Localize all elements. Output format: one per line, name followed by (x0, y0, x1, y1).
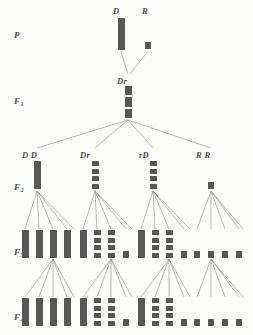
generation-label-f2: F2 (14, 182, 24, 192)
f3-group3-bar2-segment (152, 230, 159, 235)
f3-group4-bar3 (222, 251, 228, 258)
f4-group2-bar4 (123, 319, 129, 326)
f4-group2-bar3-segment (108, 298, 115, 303)
f4-group2-bar2-segment (94, 313, 101, 318)
f3-group3-bar2-segment (152, 238, 159, 243)
f4-group3-bar4 (181, 319, 187, 326)
f4-group3-bar1 (138, 298, 145, 326)
generation-label-p: P (14, 30, 20, 40)
connector-f2-to-f3-g2-5 (95, 191, 132, 229)
f3-group2-bar2-segment (94, 230, 101, 235)
connector-f1-to-f2-1 (37, 120, 128, 148)
connector-f3-to-f4-g2-5 (111, 259, 132, 297)
inheritance-diagram: PF1F2F3F4 DRDrD DDrrDR R (0, 0, 253, 335)
f2-node-dr-segment (92, 176, 99, 181)
connector-f3-to-f4-g1-4 (53, 259, 67, 297)
connector-f3-to-f4-g2-2 (97, 259, 111, 297)
f4-group1-bar3 (50, 298, 57, 326)
connector-f1-to-f2-3 (128, 120, 153, 148)
connector-f2-to-f3-g1-5 (37, 191, 74, 229)
f2-node-rr (208, 182, 214, 189)
f3-group3-bar3-segment (166, 230, 173, 235)
f2-node-rd-segment (150, 176, 157, 181)
connector-f2-to-f3-g3-2 (153, 191, 155, 229)
f4-group3-bar3-segment (166, 313, 173, 318)
connector-f2-to-f3-g3-1 (141, 191, 153, 229)
f1-node-dr-segment (125, 109, 132, 118)
genotype-label-dr: Dr (117, 76, 127, 86)
f1-node-dr-segment (125, 86, 132, 95)
connector-f3-to-f4-g4-3 (211, 259, 225, 297)
connector-f2-to-f3-g2-2 (95, 191, 97, 229)
f2-node-dd (34, 161, 41, 189)
connector-f3-to-f4-g3-5 (169, 259, 190, 297)
f2-node-rd-segment (150, 161, 157, 166)
f2-node-dr-segment (92, 184, 99, 189)
f4-group4-bar2 (208, 319, 214, 326)
f4-group1-bar1 (22, 298, 29, 326)
f3-group2-bar3-segment (108, 230, 115, 235)
f4-group4-bar1 (194, 319, 200, 326)
connector-f3-to-f4-g1-2 (39, 259, 53, 297)
generation-label-subscript: 1 (20, 101, 23, 107)
f1-node-dr-segment (125, 97, 132, 106)
f3-group1-bar1 (22, 230, 29, 258)
p-node-r (145, 42, 151, 49)
f3-group1-bar3 (50, 230, 57, 258)
f2-node-rd-segment (150, 184, 157, 189)
connector-f3-to-f4-g1-5 (53, 259, 74, 297)
connector-f2-to-f3-g4-5 (211, 191, 243, 229)
connector-f2-to-f3-g3-4 (153, 191, 184, 229)
connector-f3-to-f4-g2-4 (111, 259, 126, 297)
connector-f2-to-f3-g4-3 (211, 191, 225, 229)
f2-node-dr-segment (92, 169, 99, 174)
connector-f2-to-f3-g4-1 (197, 191, 211, 229)
f3-group4-bar4 (236, 251, 242, 258)
connector-f2-to-f3-g2-1 (83, 191, 95, 229)
f3-group3-bar3-segment (166, 238, 173, 243)
connector-f2-to-f3-g4-4 (211, 191, 239, 229)
f4-group3-bar3-segment (166, 321, 173, 326)
connector-f3-to-f4-g2-1 (83, 259, 111, 297)
connector-f2-to-f3-g3-5 (153, 191, 190, 229)
f4-group2-bar3-segment (108, 313, 115, 318)
connector-f1-to-f2-2 (95, 120, 128, 148)
f2-node-rd-segment (150, 169, 157, 174)
f4-group2-bar2-segment (94, 306, 101, 311)
f3-group3-bar4 (181, 251, 187, 258)
f4-group2-bar2-segment (94, 321, 101, 326)
f4-group2-bar3-segment (108, 306, 115, 311)
f4-group3-bar2-segment (152, 306, 159, 311)
connector-f2-to-f3-g1-4 (37, 191, 67, 229)
f3-group3-bar2-segment (152, 245, 159, 250)
f4-group1-bar4 (64, 298, 71, 326)
connector-f2-to-f3-g3-3 (153, 191, 169, 229)
f3-group3-bar3-segment (166, 253, 173, 258)
f2-node-dr-segment (92, 161, 99, 166)
connector-f3-to-f4-g4-5 (211, 259, 243, 297)
f4-group1-bar2 (36, 298, 43, 326)
f3-group3-bar2-segment (152, 253, 159, 258)
connector-f3-to-f4-g1-1 (25, 259, 53, 297)
connector-f2-to-f3-g1-3 (37, 191, 53, 229)
genotype-label-dr2: Dr (80, 150, 90, 160)
genotype-label-d: D (113, 6, 119, 16)
f4-group3-bar2-segment (152, 313, 159, 318)
connector-f2-to-f3-g2-3 (95, 191, 111, 229)
connector-p-to-f1-1 (121, 52, 128, 74)
connector-f2-to-f3-g1-2 (37, 191, 39, 229)
f3-group2-bar1 (80, 230, 87, 258)
f3-group2-bar3-segment (108, 245, 115, 250)
genotype-label-rd: rD (139, 150, 149, 160)
f4-group4-bar4 (236, 319, 242, 326)
connector-f1-to-f2-4 (128, 120, 211, 148)
generation-label-f1: F1 (14, 96, 24, 106)
f3-group2-bar2-segment (94, 253, 101, 258)
f3-group1-bar2 (36, 230, 43, 258)
f3-group4-bar1 (194, 251, 200, 258)
f3-group2-bar4 (123, 251, 129, 258)
f3-group1-bar4 (64, 230, 71, 258)
f4-group4-bar3 (222, 319, 228, 326)
connector-f3-to-f4-g3-1 (141, 259, 169, 297)
f3-group2-bar3-segment (108, 253, 115, 258)
